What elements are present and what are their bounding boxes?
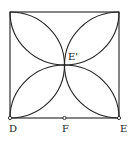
petal-bottom-left-arc-lower xyxy=(10,65,65,118)
label-e: E xyxy=(120,124,127,134)
point-f-marker xyxy=(63,116,66,119)
petal-bottom-left-arc-upper xyxy=(10,65,65,118)
point-d-marker xyxy=(8,116,11,119)
point-e-marker xyxy=(117,116,120,119)
petal-bottom-right-arc-lower xyxy=(65,65,120,118)
petal-bottom-right-arc-upper xyxy=(65,65,120,118)
label-f: F xyxy=(62,124,69,134)
geometry-figure: D F E E' xyxy=(0,0,135,141)
label-e-prime: E' xyxy=(68,52,78,62)
point-e-prime-marker xyxy=(63,64,65,66)
petal-top-left-arc-lower xyxy=(10,12,65,65)
petal-square-diagram xyxy=(0,0,135,141)
petal-top-left-arc-upper xyxy=(10,12,65,65)
label-d: D xyxy=(9,124,17,134)
